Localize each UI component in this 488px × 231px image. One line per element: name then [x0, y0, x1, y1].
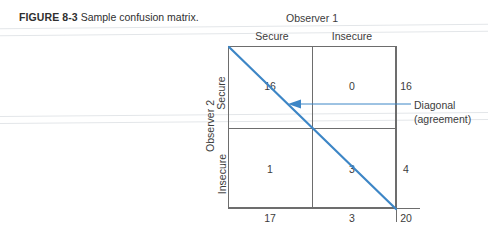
column-total-secure: 17: [250, 212, 290, 224]
row-header-secure: Secure: [215, 53, 227, 133]
annotation-line-2: (agreement): [414, 113, 488, 127]
diagonal-annotation-text: Diagonal (agreement): [414, 99, 488, 126]
column-total-insecure: 3: [332, 212, 372, 224]
matrix-vertical-divider: [312, 46, 313, 208]
column-axis-label: Observer 1: [228, 12, 396, 24]
row-header-insecure: Insecure: [216, 129, 228, 219]
cell-secure-secure: 16: [250, 80, 290, 92]
totals-row-rule: [228, 208, 420, 209]
matrix-horizontal-divider: [228, 128, 396, 129]
figure-number: FIGURE 8-3: [19, 11, 78, 23]
row-total-insecure: 4: [386, 163, 426, 175]
annotation-line-1: Diagonal: [414, 99, 488, 113]
grand-total: 20: [386, 212, 426, 224]
row-total-secure: 16: [386, 80, 426, 92]
totals-column-rule: [396, 46, 397, 222]
figure-title: Sample confusion matrix.: [81, 11, 199, 23]
cell-secure-insecure: 0: [332, 80, 372, 92]
cell-insecure-secure: 1: [250, 163, 290, 175]
cell-insecure-insecure: 3: [332, 163, 372, 175]
scan-artifact-line: [0, 24, 488, 30]
figure-caption: FIGURE 8-3 Sample confusion matrix.: [19, 10, 209, 24]
column-header-secure: Secure: [240, 30, 304, 42]
column-header-insecure: Insecure: [320, 30, 384, 42]
